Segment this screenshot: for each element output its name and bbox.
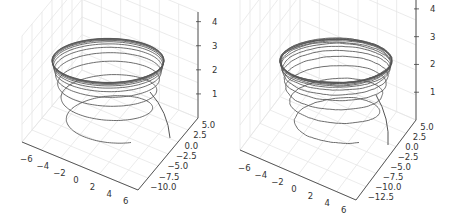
y-tick-label: −7.5 <box>383 172 404 182</box>
z-tick-label: 2 <box>430 59 435 69</box>
x-tick-label: −2 <box>271 177 284 187</box>
z-tick-label: 4 <box>212 17 217 27</box>
y-tick-label: 5.0 <box>420 122 434 132</box>
y-tick-label: −12.5 <box>368 192 394 202</box>
y-tick-label: −5.0 <box>167 161 188 171</box>
x-tick-label: −6 <box>238 163 251 173</box>
x-tick-label: −4 <box>37 161 50 171</box>
y-tick-label: −2.5 <box>398 152 419 162</box>
z-tick-label: 1 <box>212 89 217 99</box>
z-tick-label: 3 <box>212 41 217 51</box>
y-tick-label: −2.5 <box>176 151 197 161</box>
trajectory-line <box>52 38 164 143</box>
z-tick-label: 3 <box>430 32 435 42</box>
y-tick-label: 0.0 <box>405 142 419 152</box>
trajectory-start <box>376 95 388 145</box>
x-tick-label: 4 <box>106 189 111 199</box>
x-tick-label: −2 <box>53 168 66 178</box>
z-tick-label: 4 <box>430 4 435 14</box>
x-tick-label: 4 <box>324 198 329 208</box>
x-tick-label: 2 <box>90 182 95 192</box>
y-tick-label: 0.0 <box>185 141 199 151</box>
y-tick-label: −7.5 <box>159 172 180 182</box>
z-tick-label: 2 <box>212 65 217 75</box>
x-tick-label: −6 <box>20 154 33 164</box>
x-tick-label: 6 <box>123 196 128 206</box>
y-tick-label: −10.0 <box>375 182 401 192</box>
y-tick-label: −5.0 <box>390 162 411 172</box>
x-tick-label: 0 <box>73 175 78 185</box>
z-tick-label: 1 <box>430 87 435 97</box>
x-tick-label: 0 <box>291 184 296 194</box>
trajectory-start <box>150 92 170 138</box>
plot-right: −6−4−202465.02.50.0−2.5−5.0−7.5−10.0−12.… <box>228 0 456 224</box>
y-tick-label: −10.0 <box>150 182 176 192</box>
x-tick-label: 6 <box>341 205 346 215</box>
y-tick-label: 2.5 <box>193 130 207 140</box>
x-tick-label: −4 <box>255 170 268 180</box>
y-tick-label: 2.5 <box>413 132 427 142</box>
x-tick-label: 2 <box>308 191 313 201</box>
3d-axes-right: −6−4−202465.02.50.0−2.5−5.0−7.5−10.0−12.… <box>228 0 457 224</box>
y-tick-label: 5.0 <box>202 120 216 130</box>
3d-axes-left: −6−4−202465.02.50.0−2.5−5.0−7.5−10.01234 <box>0 0 228 224</box>
plot-left: −6−4−202465.02.50.0−2.5−5.0−7.5−10.01234 <box>0 0 228 224</box>
